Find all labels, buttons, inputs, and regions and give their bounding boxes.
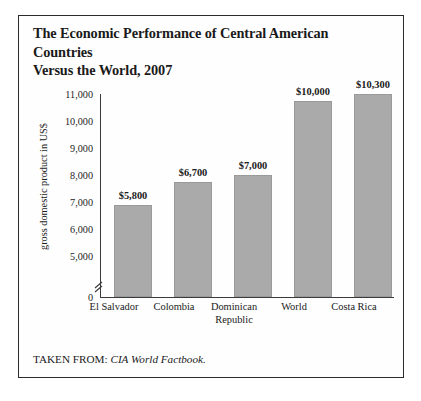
source-title: CIA World Factbook. <box>110 353 205 365</box>
x-label-line: Republic <box>192 314 276 327</box>
y-tick-8000: 8,000 <box>45 171 93 181</box>
bar-series: $5,800 $6,700 $7,000 $10,000 $10,300 <box>101 94 394 297</box>
y-tick-11000: 11,000 <box>45 90 93 100</box>
bar-slot-world: $10,000 <box>294 94 332 297</box>
chart-figure: The Economic Performance of Central Amer… <box>18 15 404 378</box>
y-tick-5000: 5,000 <box>45 252 93 262</box>
bar-value-el-salvador: $5,800 <box>100 190 166 201</box>
bar-world[interactable] <box>294 101 332 297</box>
bar-dominican-republic[interactable] <box>234 175 272 297</box>
y-axis-ticks: 11,000 10,000 9,000 8,000 7,000 6,000 5,… <box>41 16 93 379</box>
y-tick-6000: 6,000 <box>45 225 93 235</box>
bar-value-costa-rica: $10,300 <box>340 79 406 90</box>
bar-slot-el-salvador: $5,800 <box>114 94 152 297</box>
bar-slot-costa-rica: $10,300 <box>354 94 392 297</box>
bar-value-colombia: $6,700 <box>160 167 226 178</box>
x-label-costa-rica: Costa Rica <box>312 301 396 314</box>
y-tick-10000: 10,000 <box>45 117 93 127</box>
source-note: TAKEN FROM: CIA World Factbook. <box>33 353 206 365</box>
x-axis-line <box>100 297 394 298</box>
x-label-line: Costa Rica <box>312 301 396 314</box>
bar-slot-colombia: $6,700 <box>174 94 212 297</box>
y-tick-7000: 7,000 <box>45 198 93 208</box>
bar-value-world: $10,000 <box>280 86 346 97</box>
bar-el-salvador[interactable] <box>114 205 152 297</box>
source-prefix: TAKEN FROM: <box>33 353 108 365</box>
bar-colombia[interactable] <box>174 182 212 297</box>
plot-area: gross domestic product in US$ 11,000 10,… <box>19 16 405 379</box>
bar-value-dominican-republic: $7,000 <box>220 160 286 171</box>
bar-costa-rica[interactable] <box>354 94 392 297</box>
bar-slot-dominican-republic: $7,000 <box>234 94 272 297</box>
y-tick-9000: 9,000 <box>45 144 93 154</box>
